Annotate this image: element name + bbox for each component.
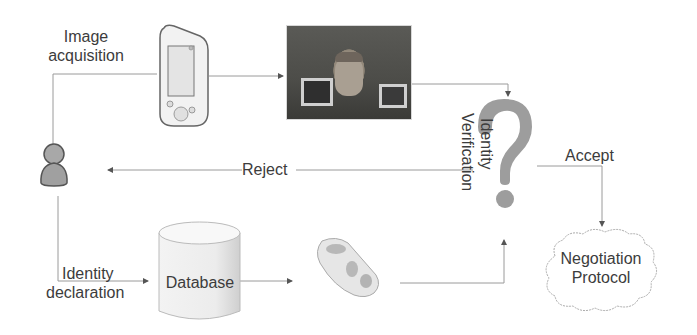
- negotiation-protocol-label: Negotiation Protocol: [541, 249, 661, 287]
- user-icon: [38, 139, 70, 193]
- image-acquisition-label: Image acquisition: [40, 27, 132, 65]
- 3d-face-template: [310, 235, 390, 305]
- pda-icon: [156, 24, 212, 128]
- identity-verification-line2: Verification: [458, 113, 477, 191]
- negotiation-protocol-line1: Negotiation: [541, 249, 661, 268]
- image-acquisition-line2: acquisition: [40, 46, 132, 65]
- image-acquisition-line1: Image: [40, 27, 132, 46]
- identity-declaration-line1: Identity: [46, 264, 124, 283]
- database-label: Database: [160, 273, 240, 292]
- database-cylinder: Database: [158, 221, 241, 325]
- negotiation-protocol-line2: Protocol: [541, 268, 661, 287]
- identity-verification-line1: Identity: [477, 118, 496, 170]
- reject-label: Reject: [242, 160, 287, 179]
- identity-declaration-label: Identity declaration: [46, 264, 124, 302]
- face-photo: [286, 25, 412, 120]
- negotiation-protocol-cloud: Negotiation Protocol: [541, 226, 661, 312]
- identity-declaration-line2: declaration: [46, 283, 124, 302]
- accept-label: Accept: [565, 146, 614, 165]
